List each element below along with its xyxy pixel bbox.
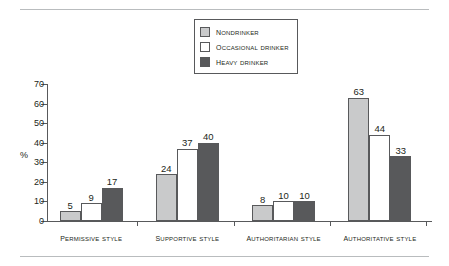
y-tick-label: 40 — [34, 138, 44, 147]
bar: 10 — [294, 201, 315, 221]
bar-value-label: 24 — [161, 164, 172, 174]
x-axis-category-label: Permissive style — [60, 232, 122, 243]
figure: NondrinkerOccasional drinkerHeavy drinke… — [0, 0, 449, 266]
bar: 8 — [252, 205, 273, 221]
bar-value-label: 10 — [299, 191, 310, 201]
bar-value-label: 33 — [396, 146, 407, 156]
bar: 40 — [198, 143, 219, 221]
x-axis-line — [47, 221, 432, 222]
bottom-divider-rule — [20, 256, 429, 257]
bar-group: 5917 — [60, 84, 123, 221]
bar: 17 — [102, 188, 123, 221]
x-axis-category-label: Authoritative style — [343, 232, 416, 243]
top-divider-rule — [20, 9, 429, 10]
bar-value-label: 9 — [88, 193, 93, 203]
bar-value-label: 8 — [260, 195, 265, 205]
bar: 33 — [390, 156, 411, 221]
legend-item-label: Occasional drinker — [216, 41, 289, 53]
legend-item: Occasional drinker — [200, 39, 289, 54]
bar: 9 — [81, 203, 102, 221]
bar-group: 243740 — [156, 84, 219, 221]
y-tick-label: 50 — [34, 119, 44, 128]
bar-value-label: 17 — [107, 177, 118, 187]
y-tick-label: 60 — [34, 99, 44, 108]
y-tick-label: 30 — [34, 158, 44, 167]
y-tick-label: 20 — [34, 177, 44, 186]
x-axis-category-label: Supportive style — [155, 232, 219, 243]
legend-item: Heavy drinker — [200, 54, 289, 69]
x-axis-tick — [426, 221, 427, 226]
legend-item: Nondrinker — [200, 24, 289, 39]
legend-swatch-heavy-drinker — [200, 57, 210, 67]
bar: 24 — [156, 174, 177, 221]
bar: 44 — [369, 135, 390, 221]
bar-group: 634433 — [348, 84, 411, 221]
bar-value-label: 44 — [375, 124, 386, 134]
y-tick-label: 10 — [34, 197, 44, 206]
legend-swatch-occasional-drinker — [200, 42, 210, 52]
x-axis-tick — [234, 221, 235, 226]
bar: 10 — [273, 201, 294, 221]
x-axis-tick — [137, 221, 138, 226]
legend-swatch-nondrinker — [200, 27, 210, 37]
chart-legend: NondrinkerOccasional drinkerHeavy drinke… — [194, 19, 298, 74]
bar-group: 81010 — [252, 84, 315, 221]
x-axis-tick — [330, 221, 331, 226]
legend-item-label: Nondrinker — [216, 26, 259, 38]
bar-value-label: 40 — [203, 132, 214, 142]
bar-value-label: 37 — [182, 138, 193, 148]
bar-value-label: 63 — [354, 87, 365, 97]
bar-value-label: 5 — [67, 201, 72, 211]
legend-item-label: Heavy drinker — [216, 56, 268, 68]
y-tick-label: 70 — [34, 80, 44, 89]
bar-value-label: 10 — [278, 191, 289, 201]
y-tick-label: 0 — [39, 217, 44, 226]
bar: 5 — [60, 211, 81, 221]
x-axis-category-label: Authoritarian style — [246, 232, 320, 243]
plot-area: 010203040506070591724374081010634433 — [47, 84, 432, 221]
y-axis-label: % — [20, 150, 28, 160]
bar: 37 — [177, 149, 198, 221]
bar: 63 — [348, 98, 369, 221]
